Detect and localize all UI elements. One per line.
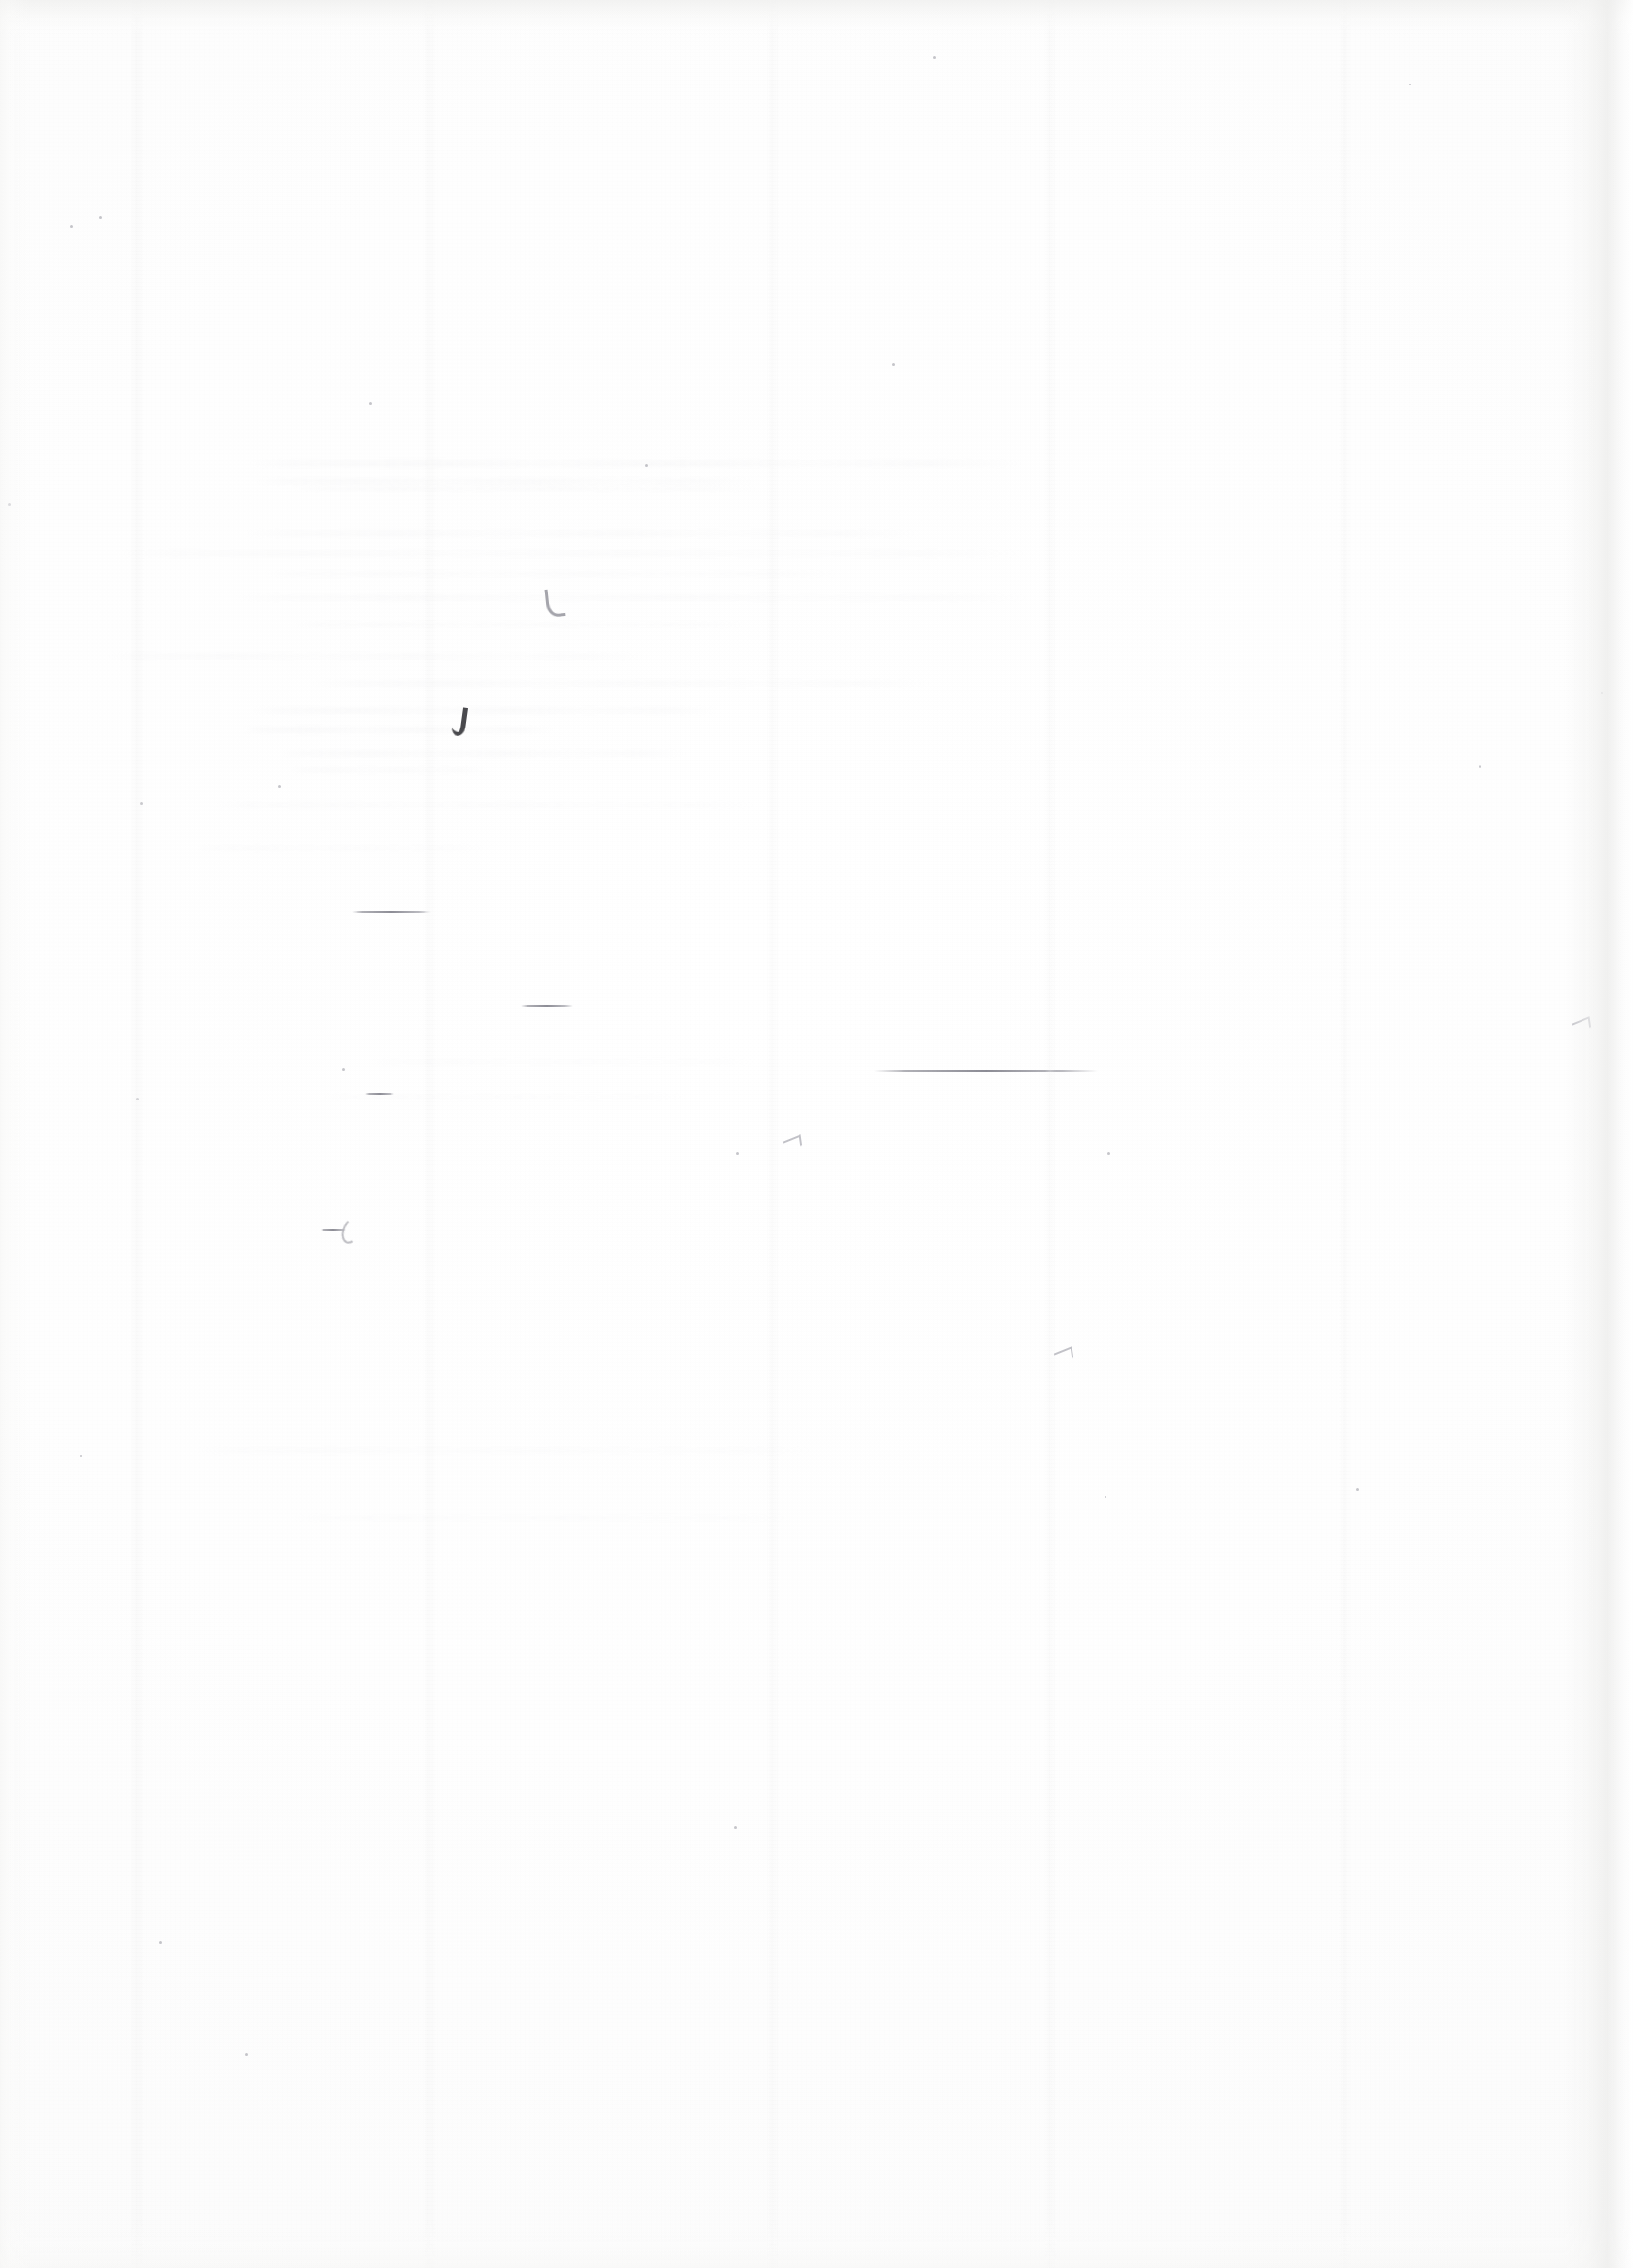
dust-speck: [933, 56, 936, 59]
ghost-text-line: [291, 1515, 797, 1521]
ghost-text-line: [194, 845, 486, 851]
dust-speck: [278, 785, 281, 788]
ghost-text-line: [194, 1447, 816, 1454]
ghost-text-line: [280, 750, 688, 757]
dust-speck: [245, 2053, 248, 2056]
ghost-text-line: [291, 486, 758, 491]
ghost-text-line: [311, 680, 933, 687]
page-edge-right: [1565, 0, 1633, 2268]
dust-speck: [734, 1826, 737, 1829]
dust-speck: [1107, 1152, 1110, 1155]
dust-speck: [1105, 1496, 1106, 1498]
dust-speck: [70, 225, 73, 228]
ghost-text-line: [253, 707, 719, 714]
page-edge-left: [0, 0, 29, 2268]
ghost-text-line: [262, 571, 845, 577]
dust-speck: [1356, 1488, 1359, 1491]
dust-speck: [1409, 84, 1411, 85]
rule-micro-upper-mark: [365, 1093, 394, 1095]
ghost-text-line: [214, 802, 758, 808]
dust-speck: [80, 1455, 82, 1457]
paper-surface: [0, 0, 1633, 2268]
dust-speck: [159, 1941, 162, 1944]
page-edge-top: [0, 0, 1633, 35]
ghost-text-line: [243, 530, 923, 537]
dust-speck: [736, 1152, 739, 1155]
ghost-text-line: [369, 1059, 758, 1065]
rule-short-mid-mark: [521, 1005, 573, 1007]
ghost-text-line: [255, 478, 760, 485]
dust-speck: [99, 216, 102, 219]
dust-speck: [1479, 765, 1481, 768]
dust-speck: [892, 363, 895, 366]
ghost-text-line: [107, 653, 651, 660]
rule-long-right-mark: [874, 1070, 1098, 1072]
scanned-page: [0, 0, 1633, 2268]
dust-speck: [140, 802, 143, 805]
ghost-text-line: [291, 767, 486, 773]
ghost-text-line: [291, 622, 748, 627]
dust-speck: [136, 1098, 139, 1100]
dust-speck: [342, 1068, 345, 1071]
ghost-text-line: [243, 727, 554, 733]
dust-speck: [369, 402, 372, 405]
page-edge-bottom: [0, 2221, 1633, 2268]
ghost-text-line: [248, 460, 1025, 467]
ghost-text-line: [117, 550, 1030, 557]
ghost-text-line: [233, 594, 1030, 601]
rule-short-upper-mark: [352, 911, 431, 913]
dust-speck: [645, 464, 648, 467]
